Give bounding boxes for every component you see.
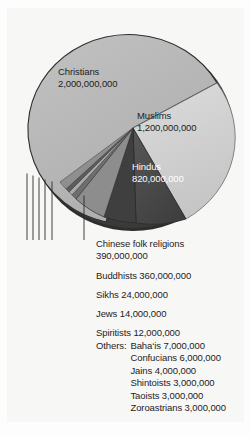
- pie-label-muslims-value: 1,200,000,000: [137, 122, 196, 134]
- legend-others-item: Taoists 3,000,000: [130, 390, 226, 402]
- pie-chart-svg: [0, 0, 251, 240]
- pie-label-muslims-name: Muslims: [137, 110, 196, 122]
- pie-label-muslims: Muslims 1,200,000,000: [137, 110, 196, 133]
- legend-others-item: Confucians 6,000,000: [130, 352, 226, 364]
- pie-chart: Christians 2,000,000,000 Muslims 1,200,0…: [0, 0, 251, 240]
- legend-item-spiritists: Spiritists 12,000,000: [96, 327, 180, 339]
- pie-label-christians-name: Christians: [58, 66, 117, 78]
- pie-label-christians: Christians 2,000,000,000: [58, 66, 117, 89]
- pie-label-christians-value: 2,000,000,000: [58, 78, 117, 90]
- pie-label-hindus: Hindus 820,000,000: [132, 161, 184, 184]
- legend-others-values: Baha‘is 7,000,000 Confucians 6,000,000 J…: [130, 340, 226, 414]
- legend-others-item: Shintoists 3,000,000: [130, 377, 226, 389]
- chart-page: Christians 2,000,000,000 Muslims 1,200,0…: [0, 0, 251, 435]
- pie-slices: [28, 34, 235, 224]
- legend-chinese-folk-name: Chinese folk religions: [96, 238, 184, 250]
- legend-list: Chinese folk religions 390,000,000 Buddh…: [0, 236, 251, 421]
- pie-label-hindus-value: 820,000,000: [132, 173, 184, 185]
- legend-item-sikhs: Sikhs 24,000,000: [96, 289, 168, 301]
- legend-item-others: Others: Baha‘is 7,000,000 Confucians 6,0…: [96, 340, 226, 414]
- legend-item-buddhists: Buddhists 360,000,000: [96, 270, 191, 282]
- legend-others-key: Others:: [96, 340, 126, 414]
- legend-chinese-folk-value: 390,000,000: [96, 250, 184, 262]
- pie-label-hindus-name: Hindus: [132, 161, 184, 173]
- legend-others-item: Zoroastrians 3,000,000: [130, 402, 226, 414]
- legend-item-jews: Jews 14,000,000: [96, 308, 166, 320]
- legend-item-chinese-folk: Chinese folk religions 390,000,000: [96, 238, 184, 262]
- legend-others-item: Baha‘is 7,000,000: [130, 340, 226, 352]
- legend-others-item: Jains 4,000,000: [130, 365, 226, 377]
